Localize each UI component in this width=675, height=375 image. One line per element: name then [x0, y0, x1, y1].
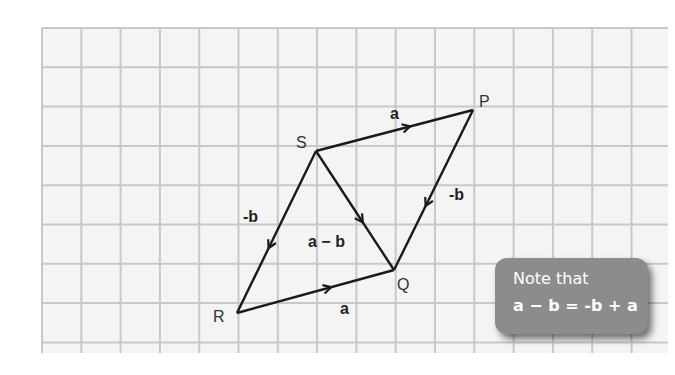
vector-diagram: S P Q R a a -b -b a − b Note that a − b …	[0, 0, 675, 375]
note-heading: Note that	[513, 269, 588, 288]
vector-label-neg-b-left: -b	[243, 208, 258, 225]
vector-label-neg-b-right: -b	[449, 186, 464, 203]
vector-label-a-bottom: a	[340, 300, 349, 317]
note-callout: Note that a − b = -b + a	[495, 258, 648, 334]
vector-label-a-top: a	[390, 105, 399, 122]
point-label-p: P	[479, 93, 490, 110]
point-label-r: R	[213, 308, 225, 325]
point-label-s: S	[296, 134, 307, 151]
note-equation: a − b = -b + a	[513, 296, 638, 315]
vector-label-a-minus-b: a − b	[308, 233, 345, 250]
point-label-q: Q	[397, 276, 409, 293]
